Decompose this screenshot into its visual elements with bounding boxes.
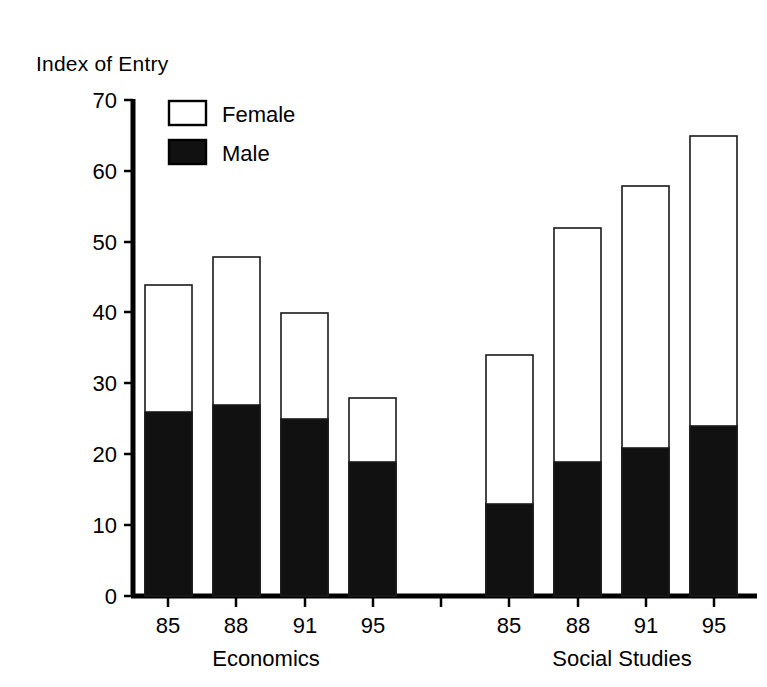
bar-segment-male — [622, 448, 669, 596]
bar-segment-male — [554, 462, 601, 596]
y-tick-label-70: 70 — [93, 88, 117, 113]
x-tick-label-economics-85: 85 — [156, 613, 180, 638]
bar-segment-male — [690, 426, 737, 596]
x-tick-label-social-studies-85: 85 — [497, 613, 521, 638]
y-tick-label-60: 60 — [93, 159, 117, 184]
legend-item-male[interactable]: Male — [169, 140, 270, 166]
y-tick-label-0: 0 — [105, 584, 117, 609]
legend-swatch-male — [169, 140, 206, 164]
legend-label-female: Female — [222, 102, 295, 127]
bar-segment-male — [145, 412, 192, 596]
bar-social-studies-95[interactable] — [690, 136, 737, 596]
bar-segment-male — [349, 462, 396, 596]
bar-economics-85[interactable] — [145, 285, 192, 596]
bar-social-studies-88[interactable] — [554, 228, 601, 596]
chart-container: Index of Entry 70 60 50 40 30 20 10 0 — [0, 0, 767, 687]
bar-social-studies-85[interactable] — [486, 355, 533, 596]
group-label-social-studies: Social Studies — [552, 646, 691, 671]
x-tick-label-economics-95: 95 — [361, 613, 385, 638]
bar-segment-male — [213, 405, 260, 596]
y-tick-label-50: 50 — [93, 230, 117, 255]
legend-item-female[interactable]: Female — [169, 101, 295, 127]
bar-economics-91[interactable] — [281, 313, 328, 596]
stacked-bar-chart: 70 60 50 40 30 20 10 0 — [0, 0, 767, 687]
bar-segment-male — [281, 419, 328, 596]
x-tick-label-social-studies-88: 88 — [566, 613, 590, 638]
legend: Female Male — [169, 101, 295, 166]
bar-segment-male — [486, 504, 533, 596]
y-tick-label-40: 40 — [93, 300, 117, 325]
y-tick-label-20: 20 — [93, 442, 117, 467]
legend-label-male: Male — [222, 141, 270, 166]
bar-social-studies-91[interactable] — [622, 186, 669, 596]
bar-economics-95[interactable] — [349, 398, 396, 596]
group-label-economics: Economics — [212, 646, 320, 671]
x-tick-label-economics-88: 88 — [224, 613, 248, 638]
bar-economics-88[interactable] — [213, 257, 260, 596]
x-tick-label-economics-91: 91 — [293, 613, 317, 638]
x-tick-label-social-studies-95: 95 — [702, 613, 726, 638]
y-tick-label-10: 10 — [93, 513, 117, 538]
y-tick-label-30: 30 — [93, 371, 117, 396]
legend-swatch-female — [169, 101, 206, 125]
x-tick-label-social-studies-91: 91 — [634, 613, 658, 638]
